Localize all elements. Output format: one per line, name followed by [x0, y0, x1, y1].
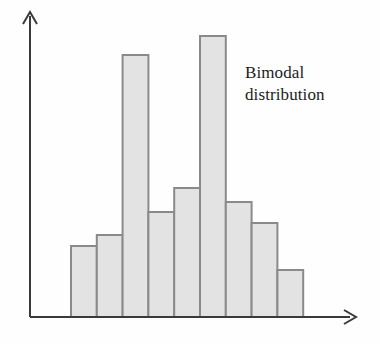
chart-canvas [0, 0, 380, 344]
histogram-bar [200, 36, 226, 317]
chart-annotation-label: Bimodal distribution [245, 62, 365, 106]
histogram-bar [71, 246, 97, 317]
histogram-bar [174, 188, 200, 317]
histogram-bar [123, 55, 149, 317]
histogram-bar [277, 270, 303, 317]
histogram-bar [252, 223, 278, 317]
histogram-bar [148, 212, 174, 317]
histogram-figure: Bimodal distribution [0, 0, 380, 344]
histogram-bar [97, 235, 123, 317]
histogram-bar [226, 202, 252, 317]
